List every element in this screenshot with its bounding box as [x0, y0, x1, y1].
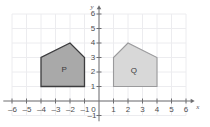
- x-tick-label-pos5: 5: [165, 106, 179, 114]
- shape-label-p: P: [58, 66, 70, 74]
- y-axis-label: y: [91, 4, 94, 11]
- x-tick-label-neg3: –3: [49, 106, 63, 114]
- y-tick-label-pos4: 4: [87, 39, 99, 47]
- x-tick-label-neg6: –6: [6, 106, 20, 114]
- axis-lines: [3, 5, 194, 121]
- y-tick-label-pos5: 5: [87, 25, 99, 33]
- x-tick-label-neg5: –5: [20, 106, 34, 114]
- y-tick-label-pos2: 2: [87, 68, 99, 76]
- x-tick-label-pos6: 6: [179, 106, 193, 114]
- x-axis-label: x: [196, 104, 199, 111]
- y-tick-label-neg1: –1: [86, 112, 98, 120]
- shape-q-polygon: [114, 43, 158, 87]
- shape-label-q: Q: [128, 67, 140, 75]
- y-tick-label-pos1: 1: [87, 83, 99, 91]
- x-tick-label-pos1: 1: [107, 106, 121, 114]
- x-tick-label-neg2: –2: [64, 106, 78, 114]
- coordinate-plane-figure: –6–5–4–3–2–11234560654321–1xyPQ: [0, 0, 210, 127]
- x-tick-label-pos4: 4: [150, 106, 164, 114]
- x-tick-label-pos3: 3: [136, 106, 150, 114]
- x-tick-label-pos2: 2: [121, 106, 135, 114]
- x-tick-label-neg4: –4: [35, 106, 49, 114]
- y-tick-label-pos3: 3: [87, 54, 99, 62]
